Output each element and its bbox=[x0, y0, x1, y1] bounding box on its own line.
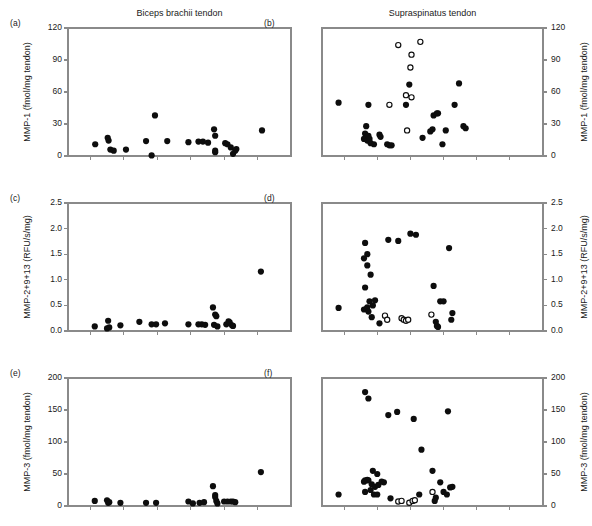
data-point-filled bbox=[152, 112, 158, 118]
data-point-filled bbox=[224, 498, 230, 504]
data-point-filled bbox=[213, 313, 219, 319]
data-point-filled bbox=[213, 498, 219, 504]
data-point-filled bbox=[364, 137, 370, 143]
ytick-label: 100 bbox=[28, 436, 62, 446]
data-point-filled bbox=[365, 395, 371, 401]
ytick-label: 30 bbox=[28, 118, 62, 128]
data-point-filled bbox=[456, 80, 462, 86]
data-point-filled bbox=[370, 302, 376, 308]
data-point-filled bbox=[259, 127, 265, 133]
data-point-filled bbox=[201, 499, 207, 505]
data-point-filled bbox=[210, 304, 216, 310]
column-title-right: Supraspinatus tendon bbox=[322, 8, 543, 18]
ytick-label: 60 bbox=[551, 86, 560, 96]
data-point-filled bbox=[433, 495, 439, 501]
data-point-filled bbox=[403, 102, 409, 108]
data-point-filled bbox=[143, 138, 149, 144]
panel-tag-2: (c) bbox=[10, 193, 20, 203]
data-point-filled bbox=[92, 141, 98, 147]
data-point-filled bbox=[153, 321, 159, 327]
data-point-filled bbox=[429, 126, 435, 132]
data-point-filled bbox=[419, 135, 425, 141]
data-point-filled bbox=[185, 498, 191, 504]
data-point-filled bbox=[452, 102, 458, 108]
data-point-filled bbox=[381, 479, 387, 485]
plot-area-c bbox=[0, 0, 592, 526]
data-point-filled bbox=[212, 148, 218, 154]
data-point-filled bbox=[92, 323, 98, 329]
data-point-filled bbox=[427, 128, 433, 134]
ytick-label: 0 bbox=[551, 150, 556, 160]
data-point-open bbox=[410, 498, 415, 503]
data-point-filled bbox=[225, 318, 231, 324]
data-point-filled bbox=[105, 318, 111, 324]
data-point-open bbox=[382, 313, 387, 318]
data-point-filled bbox=[106, 324, 112, 330]
data-point-filled bbox=[374, 471, 380, 477]
data-point-filled bbox=[153, 500, 159, 506]
ytick-label: 1.5 bbox=[28, 248, 62, 258]
data-point-filled bbox=[185, 321, 191, 327]
data-point-filled bbox=[435, 324, 441, 330]
data-point-filled bbox=[416, 491, 422, 497]
data-point-filled bbox=[230, 323, 236, 329]
ytick-label: 120 bbox=[28, 22, 62, 32]
ytick-label: 90 bbox=[551, 54, 560, 64]
data-point-filled bbox=[136, 319, 142, 325]
data-point-filled bbox=[365, 102, 371, 108]
data-point-filled bbox=[212, 492, 218, 498]
data-point-filled bbox=[407, 231, 413, 237]
data-point-filled bbox=[106, 499, 112, 505]
data-point-filled bbox=[362, 284, 368, 290]
data-point-filled bbox=[437, 298, 443, 304]
data-point-filled bbox=[369, 481, 375, 487]
data-point-filled bbox=[361, 479, 367, 485]
ytick-label: 200 bbox=[551, 372, 565, 382]
data-point-open bbox=[385, 317, 390, 322]
data-point-filled bbox=[212, 312, 218, 318]
data-point-filled bbox=[210, 483, 216, 489]
data-point-filled bbox=[230, 498, 236, 504]
data-point-filled bbox=[434, 110, 440, 116]
data-point-filled bbox=[435, 110, 441, 116]
panel-tag-0: (a) bbox=[10, 18, 21, 28]
data-point-filled bbox=[446, 245, 452, 251]
data-point-open bbox=[403, 93, 408, 98]
data-point-filled bbox=[362, 489, 368, 495]
data-point-filled bbox=[117, 500, 123, 506]
data-point-filled bbox=[214, 323, 220, 329]
panel-tag-1: (b) bbox=[264, 18, 275, 28]
data-point-filled bbox=[363, 123, 369, 129]
data-point-filled bbox=[364, 477, 370, 483]
data-point-open bbox=[408, 65, 413, 70]
data-point-filled bbox=[199, 321, 205, 327]
column-title-left: Biceps brachii tendon bbox=[68, 8, 291, 18]
y-axis-title: MMP-3 (fmol/mg tendon) bbox=[579, 378, 589, 506]
data-point-filled bbox=[406, 81, 412, 87]
panel-tag-5: (f) bbox=[264, 368, 272, 378]
data-point-filled bbox=[363, 306, 369, 312]
data-point-filled bbox=[117, 322, 123, 328]
y-axis-title: MMP-1 (fmol/mg tendon) bbox=[579, 28, 589, 156]
plot-area-f bbox=[0, 0, 592, 526]
data-point-open bbox=[406, 317, 411, 322]
y-axis-title: MMP-3 (fmol/mg tendon) bbox=[22, 378, 32, 506]
data-point-filled bbox=[228, 498, 234, 504]
data-point-open bbox=[401, 317, 406, 322]
data-point-filled bbox=[433, 319, 439, 325]
ytick-label: 50 bbox=[28, 468, 62, 478]
data-point-filled bbox=[335, 305, 341, 311]
data-point-filled bbox=[385, 412, 391, 418]
data-point-filled bbox=[335, 100, 341, 106]
ytick-label: 1.5 bbox=[551, 248, 563, 258]
plot-area-a bbox=[0, 0, 592, 526]
data-point-filled bbox=[385, 237, 391, 243]
data-point-filled bbox=[366, 298, 372, 304]
data-point-open bbox=[396, 499, 401, 504]
data-point-filled bbox=[374, 491, 380, 497]
data-point-filled bbox=[222, 140, 228, 146]
data-point-filled bbox=[439, 141, 445, 147]
data-point-filled bbox=[377, 134, 383, 140]
data-point-filled bbox=[413, 232, 419, 238]
data-point-filled bbox=[362, 131, 368, 137]
